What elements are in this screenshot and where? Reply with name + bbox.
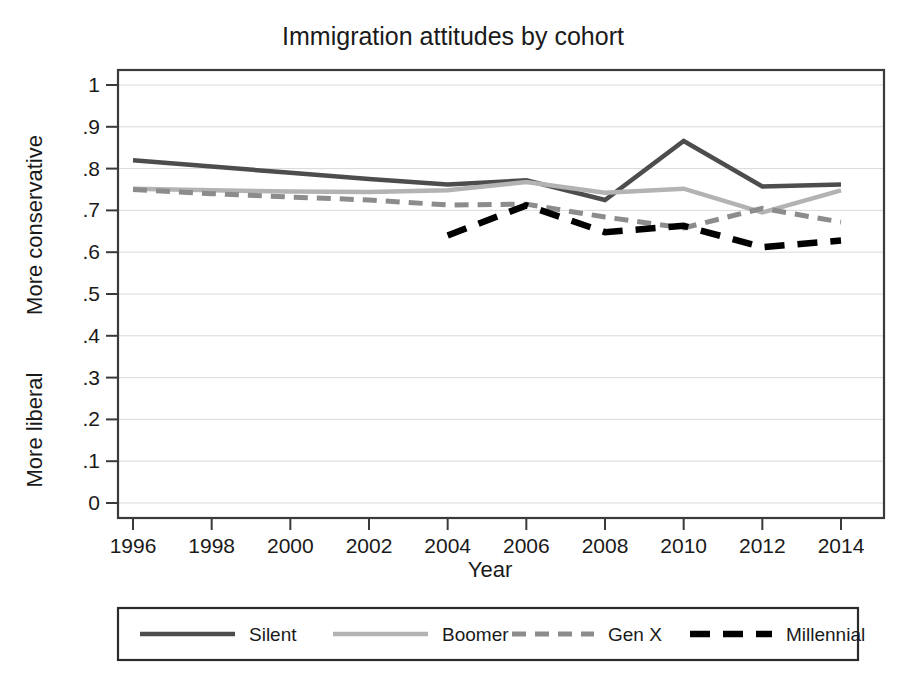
- y-tick-label: .6: [82, 240, 100, 263]
- x-tick-label: 2004: [424, 534, 471, 557]
- y-tick-label: .9: [82, 115, 100, 138]
- y-tick-label: .7: [82, 198, 100, 221]
- y-tick-label: .4: [82, 324, 100, 347]
- legend-label-boomer: Boomer: [442, 624, 509, 645]
- y-axis-label-conservative: More conservative: [22, 135, 47, 315]
- immigration-attitudes-line-chart: Immigration attitudes by cohort 0.1.2.3.…: [0, 0, 907, 681]
- y-gridlines: [119, 85, 883, 503]
- x-tick-label: 1996: [110, 534, 157, 557]
- x-axis-tick-labels: 1996199820002002200420062008201020122014: [110, 534, 865, 557]
- y-axis-tick-labels: 0.1.2.3.4.5.6.7.8.91: [82, 73, 100, 514]
- chart-title-group: Immigration attitudes by cohort: [282, 22, 624, 50]
- x-tick-label: 2000: [267, 534, 314, 557]
- x-tick-label: 2010: [660, 534, 707, 557]
- y-tick-label: .1: [82, 449, 100, 472]
- y-tick-label: 1: [88, 73, 100, 96]
- x-axis-label: Year: [468, 557, 512, 582]
- y-axis-label-liberal: More liberal: [22, 373, 47, 488]
- x-tick-label: 2006: [503, 534, 550, 557]
- x-tick-label: 2002: [346, 534, 393, 557]
- x-tick-label: 2014: [818, 534, 865, 557]
- x-tick-label: 1998: [188, 534, 235, 557]
- x-tick-label: 2008: [582, 534, 629, 557]
- y-tick-label: 0: [88, 491, 100, 514]
- x-tick-label: 2012: [739, 534, 786, 557]
- series-line-boomer: [133, 182, 841, 213]
- y-tick-label: .2: [82, 407, 100, 430]
- y-axis-ticks: [106, 85, 118, 503]
- data-series-group: [133, 141, 841, 247]
- x-axis-ticks: [133, 518, 841, 530]
- y-tick-label: .3: [82, 366, 100, 389]
- y-tick-label: .5: [82, 282, 100, 305]
- legend-label-millennial: Millennial: [786, 624, 865, 645]
- legend-label-silent: Silent: [249, 624, 297, 645]
- y-tick-label: .8: [82, 157, 100, 180]
- legend-label-gen-x: Gen X: [608, 624, 662, 645]
- chart-title: Immigration attitudes by cohort: [282, 22, 624, 50]
- chart-figure: Immigration attitudes by cohort 0.1.2.3.…: [0, 0, 907, 681]
